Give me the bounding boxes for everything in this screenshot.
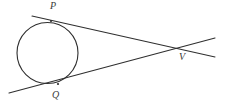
point-marker-p [50, 20, 52, 22]
geometry-canvas [0, 0, 226, 103]
point-label-v: V [179, 52, 185, 62]
point-label-p: P [50, 1, 56, 11]
point-marker-q [57, 83, 59, 85]
tangent-line-pv [32, 16, 215, 57]
point-label-q: Q [52, 90, 59, 100]
circle-shape [17, 23, 78, 84]
geometry-figure: P Q V [0, 0, 226, 103]
tangent-line-qv [9, 38, 215, 93]
